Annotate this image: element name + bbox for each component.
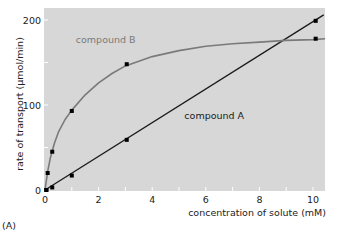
compound-b-label: compound B bbox=[76, 34, 136, 45]
compound-b-data-point bbox=[314, 37, 318, 41]
figure-label: (A) bbox=[2, 220, 16, 231]
compound-a-label: compound A bbox=[184, 110, 244, 121]
compound-b-data-point bbox=[70, 109, 74, 113]
x-tick-label: 10 bbox=[307, 194, 319, 205]
compound-a-data-point bbox=[125, 138, 129, 142]
compound-a-data-point bbox=[314, 19, 318, 23]
y-tick-label: 100 bbox=[23, 100, 41, 111]
chart-svg: 0246810 0100200 compound Acompound B con… bbox=[0, 0, 342, 233]
x-tick-label: 6 bbox=[203, 194, 209, 205]
x-tick-label: 2 bbox=[96, 194, 102, 205]
compound-b-data-point bbox=[44, 188, 48, 192]
x-axis-title: concentration of solute (mM) bbox=[188, 207, 326, 218]
x-tick-label: 4 bbox=[149, 194, 155, 205]
compound-a-data-point bbox=[50, 185, 54, 189]
compound-b-data-point bbox=[125, 62, 129, 66]
chart-container: 0246810 0100200 compound Acompound B con… bbox=[0, 0, 342, 233]
x-tick-label: 0 bbox=[42, 194, 48, 205]
y-axis-title: rate of transport (µmol/min) bbox=[14, 37, 25, 171]
y-tick-labels: 0100200 bbox=[23, 15, 41, 196]
x-tick-label: 8 bbox=[256, 194, 262, 205]
x-tick-labels: 0246810 bbox=[42, 194, 319, 205]
y-tick-label: 200 bbox=[23, 15, 41, 26]
compound-a-data-point bbox=[70, 174, 74, 178]
y-tick-label: 0 bbox=[35, 185, 41, 196]
compound-b-data-point bbox=[46, 171, 50, 175]
compound-b-data-point bbox=[50, 150, 54, 154]
